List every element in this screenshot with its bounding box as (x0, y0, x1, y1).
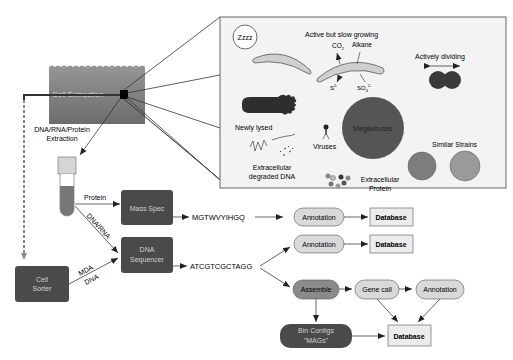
svg-text:Extraction: Extraction (46, 135, 77, 142)
svg-text:DNA: DNA (83, 273, 100, 286)
annotation-node-protein: Annotation (294, 208, 344, 226)
svg-text:Database: Database (393, 333, 424, 340)
svg-text:Extracellular: Extracellular (253, 164, 292, 171)
gene-call-node: Gene call (355, 280, 399, 299)
svg-text:Protein: Protein (84, 194, 106, 201)
svg-text:Alkane: Alkane (352, 41, 372, 48)
svg-text:Database: Database (375, 214, 406, 221)
database-node-assembly: Database (388, 325, 431, 346)
svg-text:Megaviruses: Megaviruses (353, 125, 393, 133)
svg-text:Extracellular: Extracellular (361, 176, 400, 183)
protein-sequence: MGTWVYIHGQ (192, 213, 245, 222)
dna-sequencer-box: DNA Sequencer (121, 237, 173, 273)
metagenomics-workflow-diagram: Cell Extraction Zzzz Active but slow gro… (0, 0, 513, 360)
dna-sequence: ATCGTCGCTAGG (190, 262, 252, 271)
megavirus: Megaviruses (342, 97, 404, 159)
svg-text:DNA/RNA: DNA/RNA (85, 212, 112, 240)
svg-text:Annotation: Annotation (302, 214, 336, 221)
svg-text:Annotation: Annotation (423, 286, 457, 293)
bin-contigs-node: Bin Contigs "MAGs" (280, 324, 352, 348)
svg-text:DNA/RNA/Protein: DNA/RNA/Protein (34, 126, 90, 133)
svg-text:"MAGs": "MAGs" (304, 337, 329, 344)
svg-text:Newly lysed: Newly lysed (235, 124, 272, 132)
svg-text:Mass Spec: Mass Spec (130, 205, 165, 213)
svg-text:Viruses: Viruses (313, 143, 337, 150)
svg-text:degraded DNA: degraded DNA (249, 173, 296, 181)
svg-text:Assemble: Assemble (301, 286, 332, 293)
sample-spot (120, 90, 128, 99)
assemble-node: Assemble (293, 280, 339, 299)
mass-spec-box: Mass Spec (121, 190, 173, 225)
svg-text:Gene call: Gene call (362, 286, 392, 293)
svg-text:Annotation: Annotation (302, 241, 336, 248)
svg-text:Cell: Cell (36, 276, 49, 283)
svg-text:Sequencer: Sequencer (130, 256, 165, 264)
database-node-dna: Database (370, 235, 413, 253)
annotation-node-assembly: Annotation (416, 280, 464, 299)
svg-text:Similar Strains: Similar Strains (432, 141, 478, 148)
annotation-node-dna: Annotation (294, 235, 344, 253)
sample-tube (58, 157, 76, 216)
svg-text:Active but slow growing: Active but slow growing (305, 31, 378, 39)
svg-text:Actively dividing: Actively dividing (415, 53, 465, 61)
svg-text:DNA: DNA (140, 246, 155, 253)
svg-text:Database: Database (375, 241, 406, 248)
cell-sorter-box: Cell Sorter (15, 266, 69, 302)
svg-text:Protein: Protein (369, 185, 391, 192)
svg-text:Zzzz: Zzzz (238, 34, 253, 41)
database-node-protein: Database (370, 208, 413, 226)
svg-text:Bin Contigs: Bin Contigs (298, 327, 334, 335)
svg-text:Sorter: Sorter (32, 285, 52, 292)
